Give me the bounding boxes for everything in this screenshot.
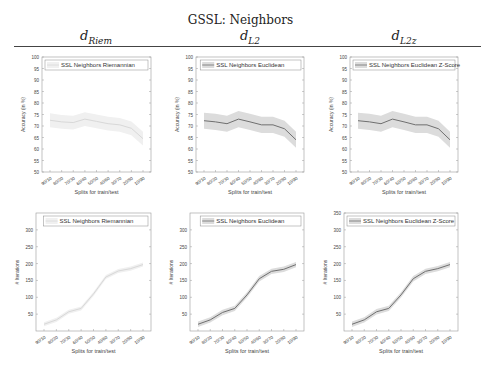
x-tick-label: 70/30: [367, 334, 379, 345]
y-tick-label: 90: [188, 78, 194, 83]
y-tick-label: 150: [333, 278, 341, 283]
y-tick-label: 85: [342, 90, 348, 95]
x-tick-label: 70/30: [64, 175, 76, 186]
x-tick-label: 60/40: [229, 175, 241, 186]
x-axis-label: Splits for train/test: [382, 189, 426, 195]
chart-panel-0: 5055606570758085909510090/1080/2070/3060…: [20, 55, 151, 195]
y-tick-label: 200: [25, 262, 33, 267]
x-tick-label: 80/20: [52, 175, 64, 186]
y-tick-label: 150: [179, 278, 187, 283]
y-tick-label: 55: [34, 159, 40, 164]
plot-area: [344, 213, 458, 331]
x-tick-label: 40/60: [96, 334, 108, 345]
legend-label: SSL Neighbors Euclidean Z-Score: [369, 62, 461, 68]
x-tick-label: 50/50: [237, 334, 249, 345]
x-tick-label: 50/50: [394, 175, 406, 186]
y-axis-label: # Iterations: [14, 259, 20, 284]
x-tick-label: 90/10: [40, 175, 52, 186]
x-tick-label: 40/60: [252, 175, 264, 186]
y-axis-label: # Iterations: [168, 259, 174, 284]
y-tick-label: 250: [333, 245, 341, 250]
x-tick-label: 10/90: [133, 175, 145, 186]
y-tick-label: 300: [333, 228, 341, 233]
y-tick-label: 80: [34, 101, 40, 106]
x-tick-label: 60/40: [72, 334, 84, 345]
legend-label: SSL Neighbors Riemannian: [60, 218, 134, 224]
y-tick-label: 60: [34, 147, 40, 152]
y-tick-label: 75: [342, 113, 348, 118]
y-tick-label: 95: [342, 67, 348, 72]
x-tick-label: 80/20: [201, 334, 213, 345]
y-tick-label: 60: [188, 147, 194, 152]
y-tick-label: 85: [188, 90, 194, 95]
y-axis-label: Accuracy (in %): [328, 97, 334, 132]
y-tick-label: 75: [188, 113, 194, 118]
y-tick-label: 55: [188, 159, 194, 164]
y-tick-label: 95: [34, 67, 40, 72]
x-tick-label: 50/50: [391, 334, 403, 345]
y-tick-label: 300: [179, 228, 187, 233]
x-tick-label: 70/30: [213, 334, 225, 345]
y-tick-label: 65: [342, 136, 348, 141]
y-axis-label: Accuracy (in %): [20, 97, 26, 132]
x-axis-label: Splits for train/test: [225, 348, 269, 354]
x-tick-label: 20/80: [428, 334, 440, 345]
x-axis-label: Splits for train/test: [379, 348, 423, 354]
y-tick-label: 75: [34, 113, 40, 118]
y-axis-label: Accuracy (in %): [174, 97, 180, 132]
x-tick-label: 40/60: [99, 175, 111, 186]
x-tick-label: 20/80: [122, 175, 134, 186]
x-tick-label: 90/10: [342, 334, 354, 345]
x-tick-label: 90/10: [34, 334, 46, 345]
x-tick-label: 40/60: [406, 175, 418, 186]
x-tick-label: 30/70: [262, 334, 274, 345]
x-tick-label: 10/90: [286, 175, 298, 186]
y-tick-label: 100: [339, 55, 347, 60]
y-tick-label: 90: [342, 78, 348, 83]
y-tick-label: 60: [342, 147, 348, 152]
plot-area: [190, 213, 304, 331]
y-tick-label: 250: [25, 245, 33, 250]
x-tick-label: 50/50: [87, 175, 99, 186]
y-tick-label: 50: [336, 312, 342, 317]
x-tick-label: 20/80: [275, 175, 287, 186]
x-tick-label: 50/50: [240, 175, 252, 186]
y-tick-label: 200: [179, 262, 187, 267]
x-tick-label: 50/50: [84, 334, 96, 345]
x-tick-label: 90/10: [188, 334, 200, 345]
chart-panel-1: 5055606570758085909510090/1080/2070/3060…: [174, 55, 304, 195]
x-tick-label: 80/20: [355, 334, 367, 345]
y-tick-label: 50: [188, 170, 194, 175]
y-tick-label: 65: [188, 136, 194, 141]
x-tick-label: 30/70: [263, 175, 275, 186]
x-tick-label: 20/80: [121, 334, 133, 345]
x-tick-label: 40/60: [250, 334, 262, 345]
x-tick-label: 10/90: [440, 175, 452, 186]
x-tick-label: 60/40: [379, 334, 391, 345]
x-tick-label: 70/30: [371, 175, 383, 186]
chart-grid: 5055606570758085909510090/1080/2070/3060…: [0, 0, 481, 373]
legend-label: SSL Neighbors Euclidean Z-Score: [363, 218, 455, 224]
y-tick-label: 55: [342, 159, 348, 164]
y-tick-label: 50: [28, 312, 34, 317]
y-tick-label: 65: [34, 136, 40, 141]
x-tick-label: 80/20: [47, 334, 59, 345]
legend-label: SSL Neighbors Euclidean: [216, 218, 284, 224]
y-tick-label: 100: [185, 55, 193, 60]
x-tick-label: 30/70: [110, 175, 122, 186]
x-tick-label: 60/40: [75, 175, 87, 186]
y-tick-label: 70: [34, 124, 40, 129]
chart-panel-4: 5010015020025030090/1080/2070/3060/4050/…: [168, 213, 304, 354]
y-tick-label: 80: [342, 101, 348, 106]
x-tick-label: 70/30: [59, 334, 71, 345]
y-tick-label: 70: [188, 124, 194, 129]
x-axis-label: Splits for train/test: [74, 189, 118, 195]
x-tick-label: 10/90: [286, 334, 298, 345]
x-tick-label: 20/80: [429, 175, 441, 186]
chart-panel-3: 5010015020025030090/1080/2070/3060/4050/…: [14, 213, 151, 354]
y-tick-label: 100: [31, 55, 39, 60]
x-tick-label: 30/70: [417, 175, 429, 186]
y-tick-label: 50: [182, 312, 188, 317]
y-tick-label: 85: [34, 90, 40, 95]
y-tick-label: 100: [333, 295, 341, 300]
